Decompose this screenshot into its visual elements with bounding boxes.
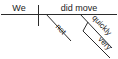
adverb-very-label: very bbox=[96, 35, 113, 52]
subject-word-label: We bbox=[12, 3, 25, 13]
sentence-diagram-canvas: We did move not quickly very bbox=[0, 0, 118, 59]
adverb-quickly-label: quickly bbox=[90, 13, 113, 37]
sentence-diagram: We did move not quickly very bbox=[0, 0, 118, 59]
verb-phrase-label: did move bbox=[61, 3, 98, 13]
very-connector-line bbox=[83, 22, 88, 31]
